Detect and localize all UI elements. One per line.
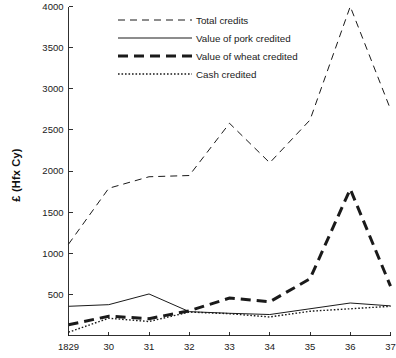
y-tick-label: 2000 (42, 165, 63, 176)
x-tick-label: 30 (103, 341, 114, 352)
legend-label-3: Cash credited (196, 69, 256, 80)
legend-label-0: Total credits (196, 15, 248, 26)
x-tick-label: 36 (345, 341, 356, 352)
x-tick-label: 31 (144, 341, 155, 352)
y-tick-label: 1000 (42, 248, 63, 259)
x-tick-label: 32 (184, 341, 195, 352)
y-tick-label: 500 (48, 289, 64, 300)
legend-label-2: Value of wheat credited (196, 51, 298, 62)
y-tick-label: 4000 (42, 1, 63, 12)
y-tick-label: 1500 (42, 207, 63, 218)
x-axis-ticks: 18293031323334353637 (58, 332, 396, 352)
x-tick-label: 33 (224, 341, 235, 352)
line-chart: £ (Hfx Cy) 50010001500200025003000350040… (0, 0, 396, 358)
x-tick-label: 1829 (58, 341, 79, 352)
y-tick-label: 2500 (42, 124, 63, 135)
y-axis-title: £ (Hfx Cy) (10, 148, 22, 201)
x-tick-label: 34 (264, 341, 275, 352)
series-line-3 (69, 306, 391, 332)
y-axis-ticks: 5001000150020002500300035004000 (42, 1, 72, 300)
x-tick-label: 35 (305, 341, 316, 352)
x-tick-label: 37 (385, 341, 396, 352)
y-tick-label: 3500 (42, 42, 63, 53)
chart-figure: £ (Hfx Cy) 50010001500200025003000350040… (0, 0, 396, 358)
y-tick-label: 3000 (42, 83, 63, 94)
legend-label-1: Value of pork credited (196, 33, 291, 44)
chart-legend: Total creditsValue of pork creditedValue… (118, 15, 298, 80)
